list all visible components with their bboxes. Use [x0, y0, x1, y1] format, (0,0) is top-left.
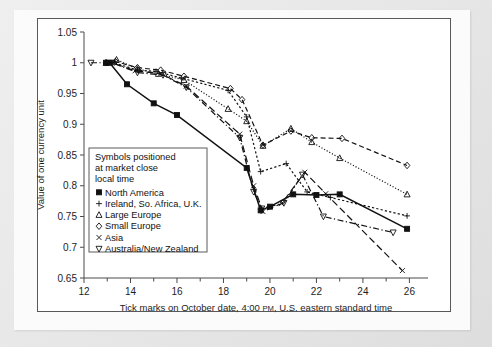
data-point-marker	[225, 106, 231, 112]
data-point-marker	[151, 101, 156, 106]
x-axis-title: Tick marks on October date, 4:00 PM, U.S…	[120, 302, 392, 313]
legend-entry-label: Small Europe	[105, 221, 161, 231]
data-point-marker	[291, 192, 296, 197]
legend-entry-label: Large Europe	[105, 210, 161, 220]
legend-entry-label: Ireland, So. Africa, U.K.	[105, 199, 202, 209]
data-point-marker	[400, 268, 405, 273]
y-tick-label: 0.95	[58, 88, 78, 99]
y-tick-label: 0.8	[63, 180, 77, 191]
chart-legend: Symbols positionedat market closelocal t…	[89, 148, 207, 254]
data-point-marker	[404, 191, 410, 197]
x-tick-label: 18	[218, 286, 230, 297]
y-tick-label: 0.9	[63, 119, 77, 130]
data-point-marker	[323, 191, 328, 196]
data-point-marker	[337, 155, 343, 161]
legend-note-line: local time	[95, 174, 134, 184]
x-tick-label: 24	[357, 286, 369, 297]
y-tick-label: 0.75	[58, 211, 78, 222]
data-point-marker	[258, 169, 264, 175]
data-point-marker	[125, 82, 130, 87]
legend-entry-label: Australia/New Zealand	[105, 244, 199, 254]
y-tick-label: 0.7	[63, 242, 77, 253]
x-tick-label: 22	[311, 286, 323, 297]
x-tick-label: 14	[125, 286, 137, 297]
legend-entry-label: Asia	[105, 233, 124, 243]
y-tick-label: 0.85	[58, 150, 78, 161]
legend-entry-label: North America	[105, 188, 165, 198]
x-tick-label: 16	[171, 286, 183, 297]
data-point-marker	[404, 213, 410, 219]
figure-background: 0.650.70.750.80.850.90.9511.051214161820…	[0, 0, 492, 347]
x-tick-label: 26	[404, 286, 416, 297]
x-tick-label: 12	[78, 286, 90, 297]
data-point-marker	[337, 192, 342, 197]
x-tick-label: 20	[264, 286, 276, 297]
data-point-marker	[97, 190, 102, 195]
data-point-marker	[174, 113, 179, 118]
data-point-marker	[320, 214, 326, 220]
data-point-marker	[390, 230, 396, 236]
legend-note-line: at market close	[95, 163, 158, 173]
line-chart: 0.650.70.750.80.850.90.9511.051214161820…	[0, 0, 492, 347]
y-tick-label: 1.05	[58, 27, 78, 38]
y-tick-label: 0.65	[58, 273, 78, 284]
y-axis-title: Value of one currency unit	[35, 100, 46, 210]
y-tick-label: 1	[71, 57, 77, 68]
legend-note-line: Symbols positioned	[95, 152, 176, 162]
data-point-marker	[405, 226, 410, 231]
